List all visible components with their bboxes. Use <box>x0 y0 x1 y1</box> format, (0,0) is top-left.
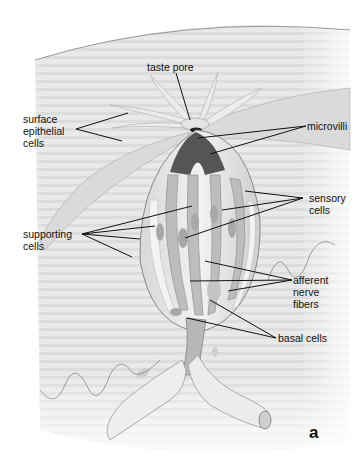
label-sensory-cells: sensory cells <box>309 192 346 216</box>
label-supporting-cells: supporting cells <box>23 228 72 252</box>
panel-letter: a <box>309 423 318 443</box>
label-afferent-nerve-fibers: afferent nerve fibers <box>293 274 328 310</box>
nerve-cross-section <box>259 411 271 429</box>
label-taste-pore: taste pore <box>147 61 194 73</box>
label-basal-cells: basal cells <box>278 332 327 344</box>
label-microvilli: microvilli <box>307 120 347 132</box>
label-surface-epithelial-cells: surface epithelial cells <box>23 113 64 149</box>
taste-bud-diagram: taste pore surface epithelial cells micr… <box>0 0 364 466</box>
